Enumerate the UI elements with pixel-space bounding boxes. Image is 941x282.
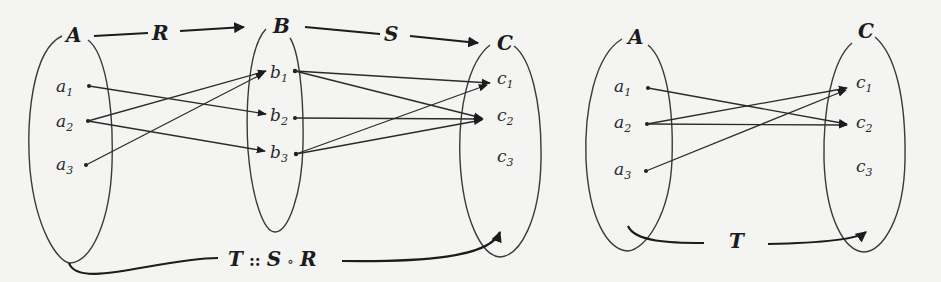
- t-arrow-tail: [628, 226, 704, 243]
- composition-label: T::S∘R: [228, 247, 317, 271]
- set-c-right: C c1 c2 c3: [824, 19, 905, 252]
- arrow-a1-b2: [89, 86, 266, 114]
- set-b-label: B: [272, 14, 290, 38]
- set-b-ellipse: [247, 29, 303, 232]
- set-a-right-label: A: [626, 25, 644, 49]
- set-c-left: C c1 c2 c3: [460, 31, 541, 257]
- set-a-label: A: [64, 23, 82, 47]
- relation-r-label: R: [151, 21, 169, 45]
- element-a1-right: a1: [614, 76, 631, 99]
- relation-s-arrows: [295, 71, 490, 154]
- set-a-ellipse: [29, 36, 112, 263]
- s-arrow-tail: [305, 27, 380, 34]
- relation-t-label: T: [729, 229, 746, 253]
- set-c-right-label: C: [858, 19, 874, 43]
- relation-s-arrow: S: [305, 22, 478, 46]
- element-b1: b1: [270, 62, 288, 85]
- relation-r-arrows: [86, 71, 266, 165]
- set-a-right: A a1 a2 a3: [586, 25, 672, 251]
- relation-t-arrows: [646, 88, 847, 171]
- r-arrow-head: [180, 27, 244, 31]
- arrow-a3-b1: [86, 73, 264, 165]
- element-a3-right: a3: [614, 159, 631, 182]
- element-a3: a3: [56, 154, 73, 177]
- right-diagram: A a1 a2 a3 C c1 c2 c3 T: [586, 19, 905, 253]
- relation-r-arrow: R: [94, 21, 244, 45]
- relation-composition-diagram: A a1 a2 a3 B b1 b2 b3 C c1 c2 c3: [0, 0, 941, 282]
- element-c2: c2: [497, 105, 514, 128]
- set-c-right-ellipse: [824, 37, 905, 252]
- element-b2: b2: [270, 105, 288, 128]
- arrow-b1-c2: [295, 71, 482, 118]
- set-c-label: C: [497, 31, 513, 55]
- arrow-a2-c2: [647, 124, 847, 125]
- s-arrow-head: [410, 36, 478, 43]
- element-c1: c1: [497, 68, 514, 91]
- arrow-a3-c1: [646, 90, 846, 171]
- element-c3-right: c3: [856, 156, 873, 179]
- composition-arrow-tail: [69, 258, 218, 274]
- set-a-left: A a1 a2 a3: [29, 23, 112, 263]
- element-b3: b3: [270, 142, 288, 165]
- composition-arrow: T::S∘R: [69, 232, 500, 274]
- arrow-b1-c1: [295, 71, 490, 83]
- arrow-b2-c2: [295, 118, 483, 119]
- diagram-svg: A a1 a2 a3 B b1 b2 b3 C c1 c2 c3: [0, 0, 941, 282]
- arrow-a2-b1: [88, 71, 266, 121]
- element-c2-right: c2: [856, 112, 873, 135]
- relation-t-arrow: T: [628, 226, 866, 253]
- element-a2: a2: [56, 111, 73, 134]
- element-c3: c3: [497, 146, 514, 169]
- set-b: B b1 b2 b3: [247, 14, 303, 232]
- composition-arrow-head: [342, 232, 500, 261]
- element-a1: a1: [56, 76, 73, 99]
- arrow-a2-b3: [88, 121, 265, 151]
- set-a-right-ellipse: [586, 39, 672, 251]
- t-arrow-head: [768, 232, 866, 244]
- left-diagram: A a1 a2 a3 B b1 b2 b3 C c1 c2 c3: [29, 14, 541, 274]
- relation-s-label: S: [384, 22, 398, 46]
- element-a2-right: a2: [614, 112, 631, 135]
- arrow-b3-c2: [296, 120, 482, 154]
- element-c1-right: c1: [856, 72, 873, 95]
- r-arrow-tail: [94, 33, 148, 36]
